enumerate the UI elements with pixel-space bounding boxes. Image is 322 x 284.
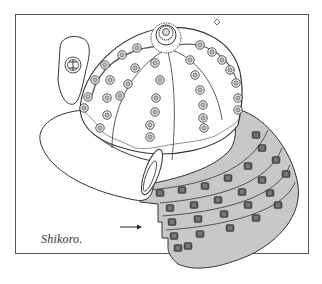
figure-caption: Shikoro. xyxy=(41,232,83,247)
arrow-right-icon xyxy=(120,225,142,230)
helmet-bowl xyxy=(80,19,242,160)
tehen-ornament xyxy=(151,23,181,53)
helmet-illustration: Shikoro. xyxy=(0,0,322,284)
